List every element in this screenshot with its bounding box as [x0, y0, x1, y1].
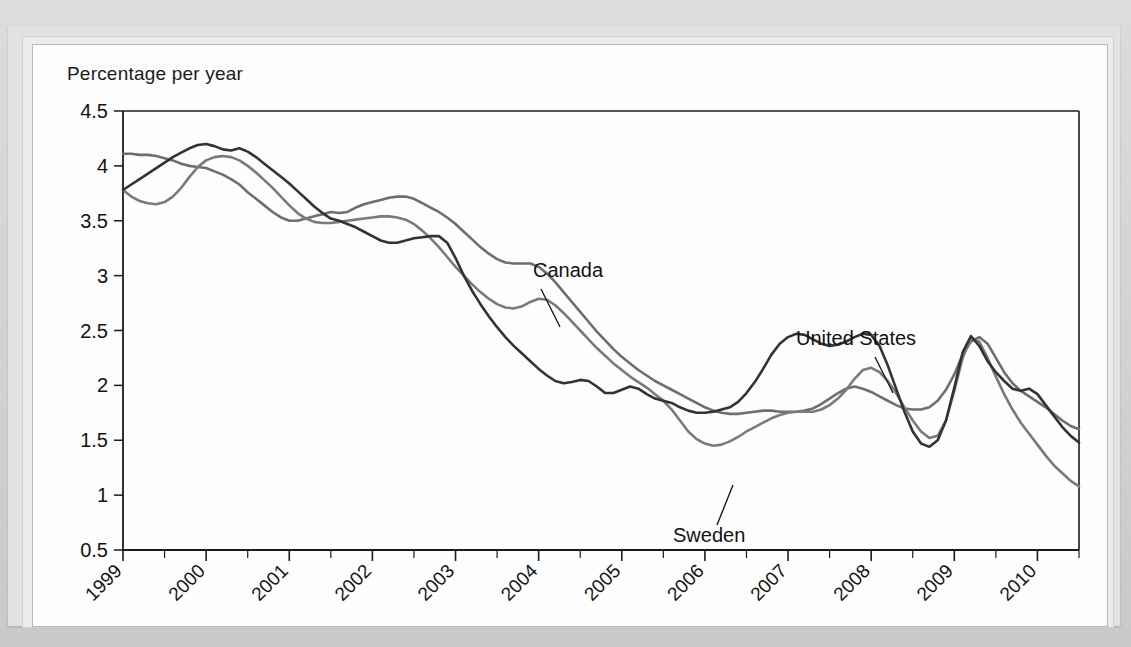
y-tick-label: 3 — [97, 265, 108, 287]
data-series-layer — [123, 144, 1079, 486]
x-tick-label: 2008 — [829, 560, 874, 605]
plot-frame — [123, 111, 1079, 550]
y-tick-label: 2.5 — [80, 320, 108, 342]
series-callouts: CanadaSwedenUnited States — [533, 259, 916, 546]
figure-panel: Percentage per year 0.511.522.533.544.5 … — [32, 44, 1108, 627]
callout-label-canada: Canada — [533, 259, 604, 281]
y-tick-label: 4 — [97, 155, 108, 177]
x-tick-label: 2001 — [247, 560, 292, 605]
x-tick-label: 2007 — [746, 560, 791, 605]
x-tick-label: 2004 — [497, 560, 542, 605]
x-tick-label: 2002 — [330, 560, 375, 605]
x-tick-label: 2005 — [580, 560, 625, 605]
y-tick-label: 3.5 — [80, 210, 108, 232]
x-tick-label: 2009 — [912, 560, 957, 605]
y-tick-label: 4.5 — [80, 100, 108, 122]
y-tick-label: 1 — [97, 484, 108, 506]
x-tick-label: 2000 — [164, 560, 209, 605]
x-tick-label: 2010 — [996, 560, 1041, 605]
series-line-canada — [123, 154, 1079, 429]
callout-label-sweden: Sweden — [673, 524, 745, 546]
callout-leader-sweden — [717, 485, 733, 525]
callout-label-united-states: United States — [796, 327, 916, 349]
line-chart: 0.511.522.533.544.5 19992000200120022003… — [33, 45, 1107, 626]
scanned-page: Percentage per year 0.511.522.533.544.5 … — [0, 0, 1131, 647]
x-axis-ticks: 1999200020012002200320042005200620072008… — [81, 550, 1079, 605]
y-tick-label: 2 — [97, 374, 108, 396]
x-tick-label: 1999 — [81, 560, 126, 605]
y-axis-ticks: 0.511.522.533.544.5 — [80, 100, 123, 561]
y-tick-label: 1.5 — [80, 429, 108, 451]
x-tick-label: 2006 — [663, 560, 708, 605]
x-tick-label: 2003 — [414, 560, 459, 605]
y-tick-label: 0.5 — [80, 539, 108, 561]
